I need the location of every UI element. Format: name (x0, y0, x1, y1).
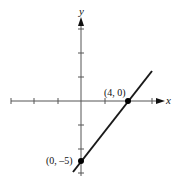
x-axis-label: x (166, 95, 171, 106)
y-axis-label: y (79, 6, 84, 17)
point-label-x-intercept: (4, 0) (104, 88, 126, 98)
y-axis-arrow-icon (78, 17, 84, 26)
point-y-intercept (78, 158, 84, 164)
point-label-y-intercept: (0, –5) (46, 156, 73, 166)
point-x-intercept (125, 98, 131, 104)
x-axis-arrow-icon (156, 98, 165, 104)
graph-plot (0, 0, 177, 178)
